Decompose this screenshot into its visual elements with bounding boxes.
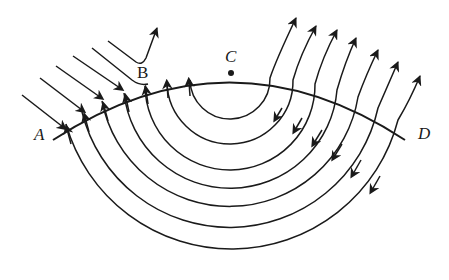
- diagram-canvas: [0, 0, 449, 280]
- label-a: A: [34, 126, 44, 143]
- point-c-dot: [228, 70, 234, 76]
- label-c: C: [225, 48, 236, 65]
- label-d: D: [418, 125, 430, 142]
- right-down-arrows: [276, 108, 380, 190]
- label-b: B: [137, 64, 148, 81]
- semicircle-lines: [66, 18, 420, 249]
